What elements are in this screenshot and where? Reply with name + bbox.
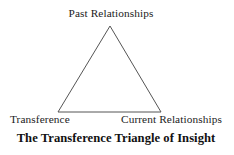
vertex-label-past-relationships: Past Relationships [0,7,234,20]
vertex-label-apex-text: Past Relationships [69,7,154,20]
vertex-label-current-relationships: Current Relationships [121,113,222,126]
triangle-outline [58,26,161,112]
vertex-label-transference: Transference [10,113,70,126]
figure-caption: The Transference Triangle of Insight [0,131,234,146]
figure-caption-text: The Transference Triangle of Insight [17,131,216,146]
transference-triangle-figure: Past Relationships Transference Current … [0,0,234,155]
